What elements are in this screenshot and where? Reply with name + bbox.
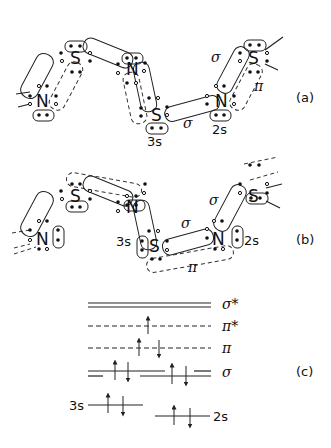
panel-label-b: (b) bbox=[296, 232, 314, 247]
panel-label-c: (c) bbox=[296, 364, 313, 379]
level-2s: 2s bbox=[155, 407, 228, 426]
atom-n: N bbox=[126, 59, 139, 79]
level-sigma-star: σ* bbox=[88, 296, 239, 312]
atom-n: N bbox=[36, 229, 49, 249]
sigma-label: σ bbox=[183, 115, 193, 131]
atom-s: S bbox=[70, 186, 81, 206]
lone-pair-box bbox=[33, 110, 54, 121]
level-pi: π bbox=[88, 340, 232, 356]
level-sigma: σ bbox=[88, 362, 232, 384]
atom-s: S bbox=[151, 105, 162, 125]
chain-end-left bbox=[16, 92, 30, 107]
atom-s: S bbox=[248, 186, 259, 206]
panel-label-a: (a) bbox=[296, 90, 314, 105]
atom-s: S bbox=[70, 48, 81, 68]
sigma-label: σ bbox=[209, 192, 219, 208]
sigma-label: σ bbox=[211, 49, 221, 65]
panel-c: σ* π* π σ bbox=[69, 296, 313, 426]
atom-n: N bbox=[212, 229, 225, 249]
pi-bond-fragment bbox=[244, 157, 278, 164]
orbital-label-3s: 3s bbox=[147, 134, 162, 149]
electron-dots bbox=[28, 43, 269, 130]
lone-pair-box bbox=[210, 110, 231, 121]
level-3s: 3s bbox=[69, 395, 143, 414]
pi-bond-fragment bbox=[14, 247, 36, 254]
level-label: 3s bbox=[69, 398, 84, 413]
atom-s: S bbox=[248, 48, 259, 68]
level-pi-star: π* bbox=[88, 318, 238, 334]
chain-end-left bbox=[12, 230, 30, 248]
sn-chain-orbital-figure: N S N S N S bbox=[0, 0, 331, 448]
level-label: σ* bbox=[222, 296, 239, 312]
pi-label: π bbox=[187, 259, 198, 275]
orbital-label-3s: 3s bbox=[116, 234, 131, 249]
atom-n: N bbox=[36, 91, 49, 111]
panel-a: N S N S N S bbox=[16, 36, 314, 149]
atom-n: N bbox=[215, 91, 228, 111]
sigma-bond-box bbox=[211, 182, 249, 234]
panel-b: N S N S N S bbox=[12, 157, 314, 275]
level-label: 2s bbox=[213, 409, 228, 424]
chain-end-right-dash bbox=[250, 172, 278, 180]
level-label: σ bbox=[222, 364, 232, 380]
atom-s: S bbox=[149, 236, 160, 256]
pi-label: π bbox=[253, 78, 264, 94]
orbital-label-2s: 2s bbox=[212, 122, 227, 137]
chain-end-right bbox=[266, 184, 282, 208]
atom-n: N bbox=[126, 197, 139, 217]
sigma-label: σ bbox=[181, 215, 191, 231]
level-label: π bbox=[221, 340, 232, 356]
level-label: π* bbox=[221, 318, 238, 334]
orbital-label-2s: 2s bbox=[244, 233, 259, 248]
